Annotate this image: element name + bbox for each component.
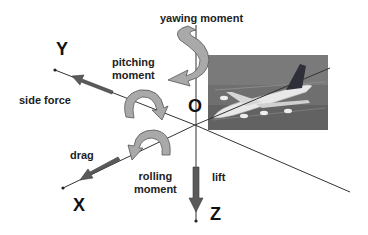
yawing-moment-label: yawing moment xyxy=(160,13,243,24)
y-axis-label: Y xyxy=(56,40,68,58)
drag-label: drag xyxy=(70,150,94,161)
lift-label: lift xyxy=(212,172,225,183)
z-axis-end-dot xyxy=(194,219,197,222)
rolling-moment-arrow xyxy=(128,130,170,160)
side-force-label: side force xyxy=(19,95,71,106)
diagram: yawing moment pitching moment rolling mo… xyxy=(0,0,368,235)
y-axis-end-dot xyxy=(53,68,56,71)
side-force-arrow xyxy=(72,75,113,94)
pitching-moment-arrow xyxy=(125,90,168,120)
lift-arrow xyxy=(189,167,203,212)
origin-label: O xyxy=(188,97,202,115)
airplane-photo xyxy=(208,55,328,130)
z-axis-label: Z xyxy=(210,205,221,223)
x-axis-label: X xyxy=(73,196,85,214)
x-axis-end-dot xyxy=(61,186,64,189)
rolling-moment-label: rolling moment xyxy=(134,170,177,196)
pitching-moment-label: pitching moment xyxy=(112,56,155,82)
yawing-moment-arrow xyxy=(168,26,209,86)
